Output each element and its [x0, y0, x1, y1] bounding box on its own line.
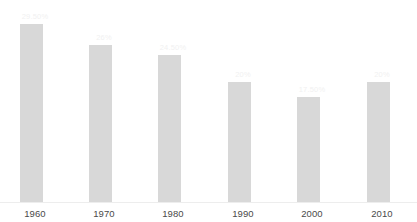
x-tick-label: 1960	[0, 208, 70, 219]
bar-chart: 29.50% 26% 24.50% 20% 17.50% 20% 1960 19…	[0, 0, 417, 222]
bar-group: 20%	[208, 0, 278, 203]
bar[interactable]	[367, 82, 390, 203]
bar-value-label: 29.50%	[0, 12, 70, 21]
bar-value-label: 17.50%	[277, 85, 347, 94]
bar-group: 20%	[347, 0, 417, 203]
bar[interactable]	[297, 97, 320, 203]
plot-area: 29.50% 26% 24.50% 20% 17.50% 20%	[0, 0, 417, 203]
bar-group: 26%	[69, 0, 139, 203]
x-tick-label: 2010	[347, 208, 417, 219]
bar[interactable]	[89, 45, 112, 203]
x-tick-label: 2000	[277, 208, 347, 219]
bar[interactable]	[228, 82, 251, 203]
x-tick-label: 1980	[138, 208, 208, 219]
bar-group: 24.50%	[138, 0, 208, 203]
bar-value-label: 20%	[208, 70, 278, 79]
x-tick-label: 1990	[208, 208, 278, 219]
bar-value-label: 20%	[347, 70, 417, 79]
bar-group: 17.50%	[277, 0, 347, 203]
bar-value-label: 26%	[69, 33, 139, 42]
x-tick-label: 1970	[69, 208, 139, 219]
bar-value-label: 24.50%	[138, 43, 208, 52]
bar[interactable]	[20, 24, 43, 203]
x-axis: 1960 1970 1980 1990 2000 2010	[0, 203, 417, 222]
bar[interactable]	[158, 55, 181, 203]
bar-group: 29.50%	[0, 0, 70, 203]
